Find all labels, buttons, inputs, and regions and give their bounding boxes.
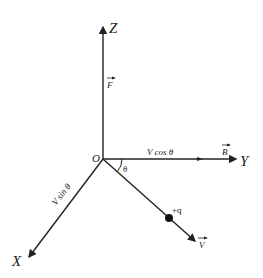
angle-label: θ bbox=[123, 164, 127, 174]
y-component-arrowhead bbox=[197, 157, 203, 161]
z-axis-label: Z bbox=[109, 20, 118, 36]
charge-label: +q bbox=[172, 205, 182, 215]
velocity-label: V bbox=[199, 240, 206, 250]
velocity-line bbox=[103, 159, 195, 241]
field-label: B bbox=[222, 147, 228, 157]
y-component-label: V cos θ bbox=[147, 147, 174, 157]
x-axis-label: X bbox=[11, 253, 22, 269]
x-axis bbox=[29, 159, 103, 257]
force-label: F bbox=[106, 80, 113, 90]
charge-dot bbox=[165, 214, 173, 222]
angle-arc bbox=[117, 159, 122, 172]
origin-label: O bbox=[92, 152, 100, 164]
coordinate-diagram: Z Y X O F B V V cos θ V sin θ θ +q bbox=[0, 0, 263, 278]
y-axis-label: Y bbox=[240, 153, 250, 169]
